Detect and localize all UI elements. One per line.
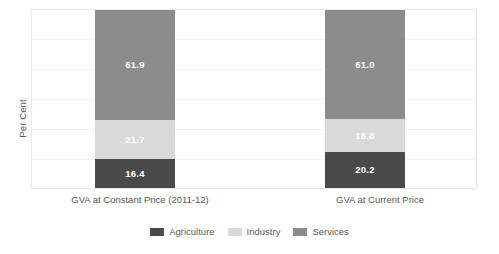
bar-segment-services[interactable]: 61.0 [325, 10, 405, 119]
legend-swatch-icon [228, 228, 242, 236]
x-axis-category-label: GVA at Current Price [240, 194, 499, 205]
bar-segment-industry[interactable]: 21.7 [95, 120, 175, 159]
bar-value-label: 61.9 [125, 60, 144, 70]
bar-stack: 61.0 18.8 20.2 [325, 10, 405, 188]
bar-value-label: 61.0 [355, 60, 374, 70]
bar-value-label: 21.7 [125, 135, 144, 145]
bar-segment-services[interactable]: 61.9 [95, 10, 175, 120]
legend-item-industry[interactable]: Industry [228, 226, 281, 237]
legend-label: Industry [247, 226, 281, 237]
y-axis-title: Per Cent [14, 78, 30, 158]
legend-item-services[interactable]: Services [293, 226, 348, 237]
plot-area: 61.9 21.7 16.4 61.0 18.8 20.2 [31, 9, 477, 189]
stacked-bar-chart: Per Cent 61.9 21.7 16.4 [0, 0, 499, 254]
bar-value-label: 20.2 [355, 165, 374, 175]
bar-segment-industry[interactable]: 18.8 [325, 119, 405, 152]
legend-swatch-icon [150, 228, 164, 236]
bar-group-current-price[interactable]: 61.0 18.8 20.2 [325, 10, 405, 188]
bar-group-constant-price[interactable]: 61.9 21.7 16.4 [95, 10, 175, 188]
y-axis-title-label: Per Cent [17, 99, 28, 137]
legend-item-agriculture[interactable]: Agriculture [150, 226, 214, 237]
bar-value-label: 16.4 [125, 169, 144, 179]
legend-label: Services [312, 226, 348, 237]
x-axis-category-label: GVA at Constant Price (2011-12) [0, 194, 280, 205]
legend-swatch-icon [293, 228, 307, 236]
bar-segment-agriculture[interactable]: 16.4 [95, 159, 175, 188]
chart-legend: Agriculture Industry Services [0, 226, 499, 237]
bar-stack: 61.9 21.7 16.4 [95, 10, 175, 188]
bar-segment-agriculture[interactable]: 20.2 [325, 152, 405, 188]
bar-value-label: 18.8 [355, 131, 374, 141]
legend-label: Agriculture [169, 226, 214, 237]
